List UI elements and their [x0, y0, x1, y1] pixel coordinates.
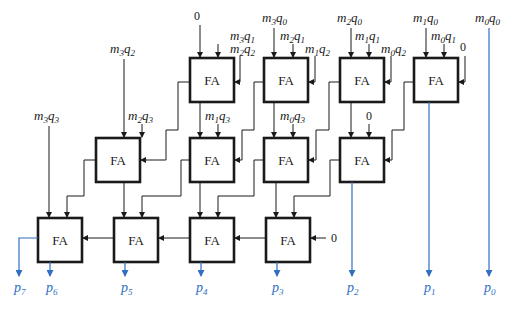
- output-p2: p2: [346, 280, 359, 297]
- output-p5: p5: [120, 280, 133, 297]
- fa-label: FA: [428, 73, 444, 88]
- input-zero-label: 0: [460, 40, 466, 54]
- input-zero-label: 0: [331, 231, 337, 245]
- full-adder-r1-c0: m1q0 m0q1 0 FA: [413, 10, 466, 102]
- fa-label: FA: [204, 153, 220, 168]
- full-adder-r3-c3: m3q3 FA: [34, 108, 96, 262]
- fa-label: FA: [278, 73, 294, 88]
- fa-label: FA: [110, 153, 126, 168]
- output-p6: p6: [45, 280, 58, 297]
- output-p3: p3: [271, 280, 284, 297]
- input-label-m1q0: m1q0: [413, 10, 438, 27]
- input-label-m3q2: m3q2: [110, 41, 135, 58]
- input-label-m2q1: m2q1: [280, 28, 305, 45]
- direct-input-m0q0: m0q0: [475, 10, 500, 276]
- input-label-m0q3: m0q3: [280, 108, 305, 125]
- output-p1: p1: [423, 280, 436, 297]
- full-adder-r2-c3: m3q2 m2q3 FA: [96, 41, 153, 182]
- full-adder-r2-c1: m0q3 FA: [264, 102, 308, 182]
- fa-label: FA: [280, 233, 296, 248]
- full-adder-r1-c2: m3q0 m2q1 m1q2 FA: [262, 10, 330, 102]
- fa-label: FA: [204, 73, 220, 88]
- fa-label: FA: [52, 233, 68, 248]
- array-multiplier-diagram: 0 m3q1 m2q2 FA m3q0 m2q1 m1q2 FA m2q0 m1…: [0, 0, 516, 309]
- input-label-m0q2: m0q2: [381, 41, 406, 58]
- full-adder-r2-c2: m1q3 FA: [190, 102, 234, 182]
- input-label-m2q3: m2q3: [128, 108, 153, 125]
- input-label-m1q1: m1q1: [355, 28, 380, 45]
- fa-label: FA: [278, 153, 294, 168]
- full-adder-r1-c3: 0 m3q1 m2q2 FA: [190, 9, 255, 102]
- fa-label: FA: [354, 153, 370, 168]
- input-label-m3q0: m3q0: [262, 10, 287, 27]
- fa-label: FA: [128, 233, 144, 248]
- input-label-m0q1: m0q1: [431, 28, 456, 45]
- fa-label: FA: [204, 233, 220, 248]
- fa-label: FA: [354, 73, 370, 88]
- output-p7: p7: [13, 280, 26, 297]
- input-label-m1q3: m1q3: [205, 108, 230, 125]
- output-labels: p7 p6 p5 p4 p3 p2 p1 p0: [13, 280, 496, 297]
- input-label-m0q0: m0q0: [475, 10, 500, 27]
- input-zero-label: 0: [194, 9, 200, 23]
- input-zero-label: 0: [366, 109, 372, 123]
- full-adder-r1-c1: m2q0 m1q1 m0q2 FA: [337, 10, 406, 102]
- input-label-m3q3: m3q3: [34, 108, 59, 125]
- input-label-m1q2: m1q2: [305, 41, 330, 58]
- full-adder-r2-c0: 0 FA: [340, 102, 384, 182]
- output-p0: p0: [483, 280, 496, 297]
- output-p4: p4: [195, 280, 208, 297]
- input-label-m2q0: m2q0: [337, 10, 362, 27]
